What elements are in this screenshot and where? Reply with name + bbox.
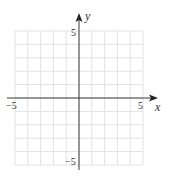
x-axis-label: x (154, 100, 161, 114)
coordinate-plane: y x 5 −5 −5 5 (0, 0, 169, 179)
x-min-tick-label: −5 (6, 100, 17, 111)
y-axis-label: y (84, 9, 91, 23)
x-max-tick-label: 5 (138, 100, 143, 111)
y-min-tick-label: −5 (65, 156, 76, 167)
y-max-tick-label: 5 (71, 27, 76, 38)
